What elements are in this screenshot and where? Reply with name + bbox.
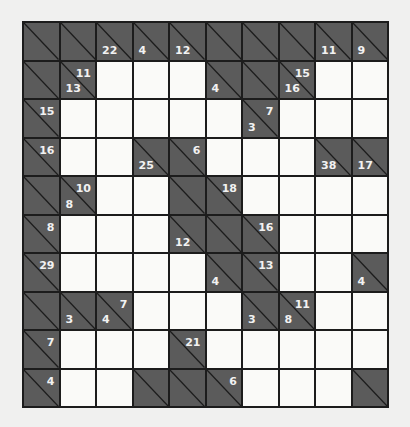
entry-cell[interactable] xyxy=(316,100,351,137)
entry-cell[interactable] xyxy=(280,331,315,368)
clue-cell: 7 xyxy=(24,331,59,368)
entry-cell[interactable] xyxy=(280,254,315,291)
entry-cell[interactable] xyxy=(134,254,169,291)
clue-cell: 4 xyxy=(24,370,59,407)
clue-cell: 6 xyxy=(170,139,205,176)
entry-cell[interactable] xyxy=(316,62,351,99)
blocked-cell xyxy=(280,23,315,60)
down-clue-sum: 12 xyxy=(175,45,190,56)
clue-cell: 3 xyxy=(61,293,96,330)
down-clue-sum: 4 xyxy=(358,276,366,287)
blocked-cell xyxy=(24,293,59,330)
clue-cell: 108 xyxy=(61,177,96,214)
entry-cell[interactable] xyxy=(207,331,242,368)
blocked-cell xyxy=(134,370,169,407)
diagonal-divider-icon xyxy=(207,23,242,60)
entry-cell[interactable] xyxy=(280,139,315,176)
entry-cell[interactable] xyxy=(280,216,315,253)
entry-cell[interactable] xyxy=(134,100,169,137)
entry-cell[interactable] xyxy=(316,216,351,253)
entry-cell[interactable] xyxy=(316,370,351,407)
across-clue-sum: 21 xyxy=(185,337,200,348)
across-clue-sum: 11 xyxy=(295,299,310,310)
entry-cell[interactable] xyxy=(134,62,169,99)
entry-cell[interactable] xyxy=(134,216,169,253)
clue-cell: 4 xyxy=(207,62,242,99)
entry-cell[interactable] xyxy=(243,177,278,214)
down-clue-sum: 3 xyxy=(248,314,256,325)
down-clue-sum: 25 xyxy=(139,160,154,171)
entry-cell[interactable] xyxy=(61,100,96,137)
entry-cell[interactable] xyxy=(353,100,388,137)
entry-cell[interactable] xyxy=(97,62,132,99)
entry-cell[interactable] xyxy=(353,62,388,99)
entry-cell[interactable] xyxy=(280,370,315,407)
entry-cell[interactable] xyxy=(207,293,242,330)
entry-cell[interactable] xyxy=(170,100,205,137)
entry-cell[interactable] xyxy=(97,254,132,291)
down-clue-sum: 38 xyxy=(321,160,336,171)
entry-cell[interactable] xyxy=(134,331,169,368)
diagonal-divider-icon xyxy=(170,177,205,214)
entry-cell[interactable] xyxy=(316,293,351,330)
entry-cell[interactable] xyxy=(243,370,278,407)
entry-cell[interactable] xyxy=(353,293,388,330)
entry-cell[interactable] xyxy=(316,254,351,291)
entry-cell[interactable] xyxy=(207,139,242,176)
entry-cell[interactable] xyxy=(243,139,278,176)
diagonal-divider-icon xyxy=(24,23,59,60)
entry-cell[interactable] xyxy=(207,100,242,137)
entry-cell[interactable] xyxy=(134,293,169,330)
clue-cell: 21 xyxy=(170,331,205,368)
clue-cell: 38 xyxy=(316,139,351,176)
entry-cell[interactable] xyxy=(61,254,96,291)
clue-cell: 11 xyxy=(316,23,351,60)
entry-cell[interactable] xyxy=(353,331,388,368)
across-clue-sum: 8 xyxy=(47,222,55,233)
entry-cell[interactable] xyxy=(97,370,132,407)
entry-cell[interactable] xyxy=(243,331,278,368)
across-clue-sum: 29 xyxy=(39,260,54,271)
entry-cell[interactable] xyxy=(316,177,351,214)
blocked-cell xyxy=(207,23,242,60)
across-clue-sum: 13 xyxy=(258,260,273,271)
entry-cell[interactable] xyxy=(280,177,315,214)
entry-cell[interactable] xyxy=(97,139,132,176)
blocked-cell xyxy=(24,62,59,99)
clue-cell: 17 xyxy=(353,139,388,176)
entry-cell[interactable] xyxy=(353,177,388,214)
entry-cell[interactable] xyxy=(280,100,315,137)
clue-cell: 4 xyxy=(353,254,388,291)
entry-cell[interactable] xyxy=(61,370,96,407)
clue-cell: 9 xyxy=(353,23,388,60)
diagonal-divider-icon xyxy=(207,216,242,253)
entry-cell[interactable] xyxy=(97,100,132,137)
clue-cell: 4 xyxy=(207,254,242,291)
entry-cell[interactable] xyxy=(61,331,96,368)
entry-cell[interactable] xyxy=(316,331,351,368)
down-clue-sum: 17 xyxy=(358,160,373,171)
down-clue-sum: 9 xyxy=(358,45,366,56)
down-clue-sum: 4 xyxy=(102,314,110,325)
clue-cell: 16 xyxy=(243,216,278,253)
across-clue-sum: 7 xyxy=(266,106,274,117)
entry-cell[interactable] xyxy=(353,216,388,253)
entry-cell[interactable] xyxy=(170,62,205,99)
entry-cell[interactable] xyxy=(61,139,96,176)
across-clue-sum: 16 xyxy=(258,222,273,233)
diagonal-divider-icon xyxy=(24,177,59,214)
clue-cell: 74 xyxy=(97,293,132,330)
across-clue-sum: 15 xyxy=(295,68,310,79)
clue-cell: 3 xyxy=(243,293,278,330)
clue-cell: 4 xyxy=(134,23,169,60)
entry-cell[interactable] xyxy=(170,293,205,330)
entry-cell[interactable] xyxy=(97,216,132,253)
diagonal-divider-icon xyxy=(280,23,315,60)
down-clue-sum: 8 xyxy=(66,199,74,210)
entry-cell[interactable] xyxy=(97,177,132,214)
entry-cell[interactable] xyxy=(170,254,205,291)
entry-cell[interactable] xyxy=(97,331,132,368)
entry-cell[interactable] xyxy=(61,216,96,253)
entry-cell[interactable] xyxy=(134,177,169,214)
across-clue-sum: 10 xyxy=(76,183,91,194)
